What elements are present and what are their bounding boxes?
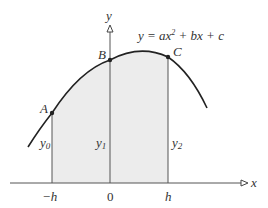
point-b — [108, 58, 112, 62]
tick-h: h — [165, 190, 172, 203]
x-axis-arrow-icon — [241, 180, 248, 186]
point-c-label: C — [173, 45, 182, 58]
parabola-diagram: y x y = ax2 + bx + c A B C y0 y1 y2 −h 0… — [0, 0, 268, 208]
tick-minus-h: −h — [42, 190, 57, 203]
equation-label: y = ax2 + bx + c — [138, 29, 224, 42]
point-a — [50, 111, 54, 115]
x-axis-label: x — [251, 176, 257, 189]
ordinate-y0-label: y0 — [40, 136, 50, 151]
point-c — [166, 55, 170, 59]
ordinate-y2-label: y2 — [172, 136, 182, 151]
tick-zero: 0 — [107, 190, 114, 203]
ordinate-y1-label: y1 — [96, 136, 106, 151]
point-b-label: B — [98, 48, 106, 61]
y-axis-label: y — [106, 9, 112, 22]
point-a-label: A — [40, 102, 48, 115]
y-axis-arrow-icon — [107, 25, 113, 32]
